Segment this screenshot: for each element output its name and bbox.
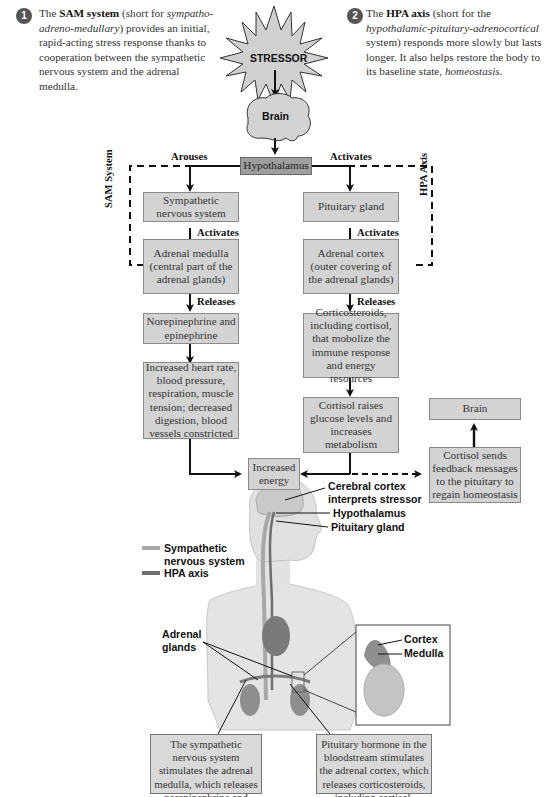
legend-hpa-label: HPA axis [164, 567, 209, 580]
anatomy-pituitary-label: Pituitary gland [331, 521, 405, 534]
brain-label: Brain [262, 110, 289, 122]
stressor-label: STRESSOR [250, 53, 307, 64]
legend-sympathetic-label: Sympathetic nervous system [164, 542, 254, 567]
corticosteroids-box: Corticosteroids, including cortisol, tha… [303, 313, 399, 378]
cortisol-raises-box: Cortisol raises glucose levels and incre… [303, 397, 399, 453]
hpa-mid: (short for the [430, 7, 491, 19]
hpa-axis-label: HPA Axis [418, 153, 429, 196]
cortex-label: Cortex [404, 633, 438, 646]
sam-mid: (short for [119, 7, 167, 19]
left-activates-label: Activates [197, 227, 239, 238]
hpa-end: . [500, 65, 503, 77]
brain-feedback-box: Brain [429, 398, 521, 420]
sympathetic-effects-box: Increased heart rate, blood pressure, re… [143, 362, 239, 439]
pituitary-hormone-callout: Pituitary hormone in the bloodstream sti… [316, 734, 432, 794]
adrenal-glands-label: Adrenal glands [162, 628, 212, 653]
hpa-axis-description: The HPA axis (short for the hypothalamic… [366, 6, 548, 79]
increased-energy-box: Increased energy [248, 458, 300, 490]
sam-pre: The [39, 7, 59, 19]
left-releases-label: Releases [197, 296, 235, 307]
hpa-italic-homeostasis: homeostasis [445, 65, 500, 77]
cerebral-cortex-label: Cerebral cortex interprets stressor [328, 480, 438, 505]
hpa-bold-term: HPA axis [386, 7, 430, 19]
adrenal-cortex-box: Adrenal cortex (outer covering of the ad… [303, 239, 399, 294]
adrenal-medulla-box: Adrenal medulla (central part of the adr… [143, 239, 239, 294]
pituitary-gland-box: Pituitary gland [303, 192, 399, 222]
hpa-italic-term: hypothalamic-pituitary-adrenocortical [366, 22, 539, 34]
norepinephrine-box: Norepinephrine and epinephrine [143, 313, 239, 344]
step-number-2: 2 [347, 8, 363, 24]
sympathetic-nervous-system-box: Sympathetic nervous system [143, 192, 239, 222]
cortisol-feedback-box: Cortisol sends feedback messages to the … [429, 447, 521, 503]
step-number-1: 1 [16, 8, 32, 24]
anatomy-hypothalamus-label: Hypothalamus [333, 507, 406, 520]
right-activates-label: Activates [357, 227, 399, 238]
activates-top-label: Activates [330, 151, 372, 162]
hpa-pre: The [366, 7, 386, 19]
sam-system-description: The SAM system (short for sympatho-adren… [39, 6, 221, 94]
arouses-label: Arouses [171, 151, 207, 162]
sam-bold-term: SAM system [59, 7, 119, 19]
sam-system-label: SAM System [103, 149, 114, 208]
sympathetic-callout: The sympathetic nervous system stimulate… [150, 734, 262, 794]
medulla-label: Medulla [404, 647, 443, 660]
hypothalamus-box: Hypothalamus [240, 157, 312, 175]
